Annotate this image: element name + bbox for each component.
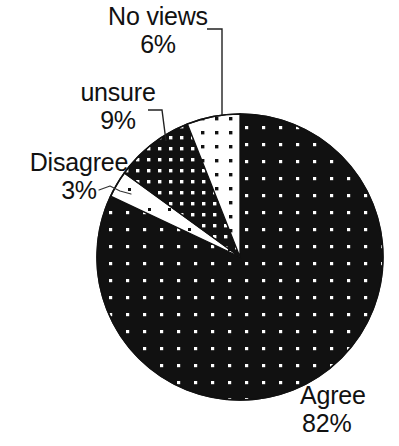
slice-label-unsure-name: unsure: [38, 78, 198, 106]
slice-label-disagree: Disagree 3%: [0, 148, 164, 204]
slice-label-agree: Agree 82%: [300, 381, 399, 437]
slice-label-unsure-value: 9%: [38, 106, 198, 134]
slice-label-no-views: No views 6%: [78, 2, 238, 58]
slice-label-disagree-value: 3%: [0, 176, 164, 204]
slice-label-no-views-name: No views: [78, 2, 238, 30]
slice-label-no-views-value: 6%: [78, 30, 238, 58]
slice-label-agree-value: 82%: [302, 409, 399, 437]
pie-chart-graphic: [0, 0, 399, 446]
slice-label-unsure: unsure 9%: [38, 78, 198, 134]
slice-label-disagree-name: Disagree: [0, 148, 164, 176]
slice-label-agree-name: Agree: [300, 381, 399, 409]
pie-chart: No views 6% unsure 9% Disagree 3% Agree …: [0, 0, 399, 446]
